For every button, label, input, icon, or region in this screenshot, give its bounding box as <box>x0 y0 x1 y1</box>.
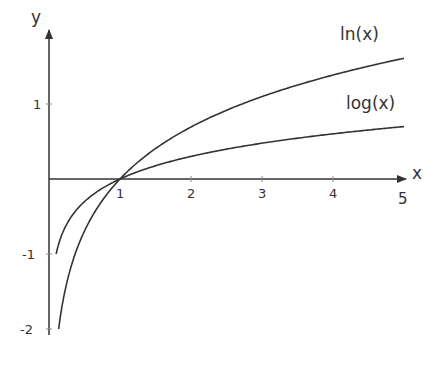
x-tick-3: 3 <box>258 187 266 200</box>
axis-ticks <box>46 104 333 329</box>
plot-area <box>0 0 445 375</box>
log-curve-label: log(x) <box>346 95 395 112</box>
log-curve <box>56 127 404 254</box>
x-tick-2: 2 <box>187 187 195 200</box>
y-axis-label: y <box>31 9 41 26</box>
x-tick-4: 4 <box>329 187 337 200</box>
x-tick-1: 1 <box>116 187 124 200</box>
y-tick-minus-2: -2 <box>20 323 33 336</box>
y-tick-minus-1: -1 <box>22 248 35 261</box>
y-tick-1: 1 <box>33 98 41 111</box>
ln-curve-label: ln(x) <box>340 26 379 43</box>
x-tick-5: 5 <box>398 192 408 207</box>
x-axis-label: x <box>412 165 422 182</box>
